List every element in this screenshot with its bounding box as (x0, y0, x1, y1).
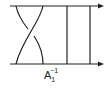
diagram-label: A1−1 (44, 68, 58, 83)
over-strand (16, 6, 43, 64)
under-strand-upper (16, 6, 28, 29)
bottom-arrow-icon (98, 62, 104, 67)
under-strand-lower (34, 36, 43, 64)
top-arrow-icon (98, 4, 104, 9)
